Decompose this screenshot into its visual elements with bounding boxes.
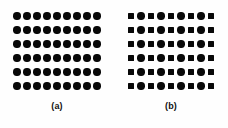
filled-square-icon [208, 41, 215, 48]
lattice-cell [136, 37, 146, 51]
filled-circle-icon [53, 12, 60, 19]
filled-circle-icon [93, 68, 100, 75]
lattice-cell [146, 23, 156, 37]
lattice-cell [22, 65, 32, 79]
filled-square-icon [128, 55, 135, 62]
filled-circle-icon [197, 12, 204, 19]
lattice-cell [52, 51, 62, 65]
filled-circle-icon [53, 68, 60, 75]
lattice-cell [206, 51, 216, 65]
lattice-cell [146, 9, 156, 23]
lattice-cell [166, 65, 176, 79]
figure-container: (a) (b) [0, 0, 228, 128]
filled-circle-icon [177, 40, 184, 47]
filled-circle-icon [73, 26, 80, 33]
filled-circle-icon [53, 82, 60, 89]
filled-circle-icon [137, 12, 144, 19]
lattice-cell [186, 79, 196, 93]
filled-circle-icon [197, 54, 204, 61]
lattice-cell [196, 23, 206, 37]
lattice-cell [156, 37, 166, 51]
lattice-cell [176, 51, 186, 65]
filled-circle-icon [13, 82, 20, 89]
lattice-cell [22, 9, 32, 23]
filled-circle-icon [157, 40, 164, 47]
filled-circle-icon [63, 82, 70, 89]
lattice-cell [92, 9, 102, 23]
lattice-cell [176, 37, 186, 51]
lattice-cell [136, 51, 146, 65]
lattice-cell [156, 9, 166, 23]
lattice-cell [186, 23, 196, 37]
filled-square-icon [188, 41, 195, 48]
lattice-cell [32, 23, 42, 37]
lattice-cell [156, 23, 166, 37]
filled-circle-icon [83, 82, 90, 89]
filled-square-icon [208, 55, 215, 62]
filled-square-icon [188, 69, 195, 76]
lattice-cell [156, 51, 166, 65]
lattice-cell [166, 79, 176, 93]
lattice-cell [42, 65, 52, 79]
lattice-cell [12, 9, 22, 23]
lattice-cell [32, 51, 42, 65]
filled-square-icon [128, 69, 135, 76]
filled-circle-icon [23, 40, 30, 47]
lattice-cell [22, 37, 32, 51]
lattice-cell [72, 79, 82, 93]
lattice-cell [32, 9, 42, 23]
lattice-row [12, 9, 102, 23]
filled-circle-icon [73, 68, 80, 75]
lattice-cell [42, 37, 52, 51]
lattice-cell [126, 65, 136, 79]
lattice-cell [166, 23, 176, 37]
lattice-cell [82, 37, 92, 51]
filled-square-icon [188, 83, 195, 90]
filled-circle-icon [63, 12, 70, 19]
filled-circle-icon [83, 54, 90, 61]
lattice-cell [176, 79, 186, 93]
filled-square-icon [168, 55, 175, 62]
filled-circle-icon [83, 26, 90, 33]
filled-square-icon [188, 27, 195, 34]
lattice-cell [72, 51, 82, 65]
lattice-cell [196, 37, 206, 51]
filled-circle-icon [177, 12, 184, 19]
filled-circle-icon [83, 12, 90, 19]
filled-circle-icon [157, 68, 164, 75]
lattice-cell [12, 51, 22, 65]
filled-circle-icon [13, 68, 20, 75]
lattice-cell [156, 79, 166, 93]
lattice-cell [22, 23, 32, 37]
filled-square-icon [148, 27, 155, 34]
filled-circle-icon [157, 54, 164, 61]
lattice-cell [52, 65, 62, 79]
lattice-cell [22, 79, 32, 93]
lattice-cell [52, 9, 62, 23]
panel-a: (a) [0, 0, 114, 111]
filled-circle-icon [177, 82, 184, 89]
filled-circle-icon [63, 40, 70, 47]
lattice-cell [146, 51, 156, 65]
filled-circle-icon [53, 54, 60, 61]
filled-square-icon [208, 69, 215, 76]
lattice-cell [72, 9, 82, 23]
filled-circle-icon [137, 54, 144, 61]
filled-circle-icon [83, 68, 90, 75]
lattice-cell [32, 65, 42, 79]
lattice-cell [136, 79, 146, 93]
lattice-cell [92, 51, 102, 65]
lattice-cell [176, 65, 186, 79]
lattice-cell [72, 65, 82, 79]
lattice-cell [12, 37, 22, 51]
filled-circle-icon [197, 82, 204, 89]
panel-b-caption: (b) [114, 101, 228, 111]
lattice-row [126, 65, 216, 79]
filled-circle-icon [33, 26, 40, 33]
lattice-cell [166, 51, 176, 65]
lattice-cell [62, 37, 72, 51]
lattice-row [126, 51, 216, 65]
filled-square-icon [208, 83, 215, 90]
lattice-cell [166, 9, 176, 23]
lattice-cell [206, 65, 216, 79]
